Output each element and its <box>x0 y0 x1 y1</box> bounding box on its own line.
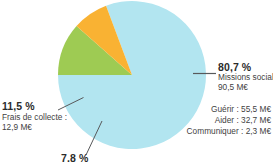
callout-left-percent: 11,5 % <box>2 100 80 113</box>
missions-sociales-breakdown: Guérir : 55,5 M€ Aider : 32,7 M€ Communi… <box>111 104 271 137</box>
breakdown-row-guerir: Guérir : 55,5 M€ <box>111 104 271 115</box>
pie-chart: 80,7 % Missions sociales 90,5 M€ Guérir … <box>0 0 273 162</box>
breakdown-row-communiquer: Communiquer : 2,3 M€ <box>111 126 271 137</box>
callout-frais-de-collecte: 11,5 % Frais de collecte : 12,9 M€ <box>2 100 80 133</box>
callout-right-amount: 90,5 M€ <box>218 83 273 93</box>
callout-frais-de-fonctionnement: 7,8 % <box>61 152 141 162</box>
callout-bottom-percent: 7,8 % <box>61 152 141 162</box>
callout-left-amount: 12,9 M€ <box>2 123 80 133</box>
breakdown-row-aider: Aider : 32,7 M€ <box>111 115 271 126</box>
callout-missions-sociales: 80,7 % Missions sociales 90,5 M€ <box>218 61 273 93</box>
